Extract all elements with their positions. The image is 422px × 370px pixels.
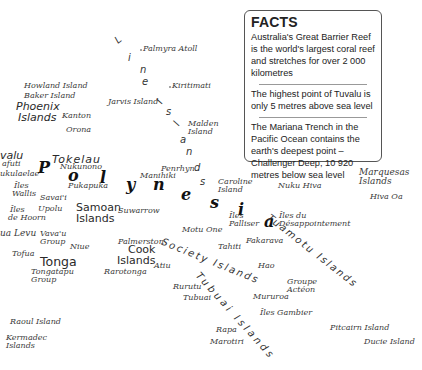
line-islands-letter: l [171,120,182,128]
place-pukapuka: Pukapuka [68,182,108,190]
island-dot [169,86,171,88]
place-savaii: Savai'i [40,194,67,202]
place-tubuai: Tubuai [183,294,211,302]
place-groupe-acteon: GroupeActéon [287,278,317,295]
place-kiritimati: Kiritimati [172,82,211,90]
line-islands-letter: s [200,176,205,187]
place-tongatapu: TongatapuGroup [31,268,74,285]
group-label-marquesas: MarquesasIslands [359,168,409,187]
place-pitcairn: Pitcairn Island [330,324,389,332]
place-rarotonga: Rarotonga [104,268,147,276]
region-label-letter: y [126,175,135,194]
line-islands-letter: a [180,134,186,145]
line-islands-letter: i [128,52,131,63]
place-funafuti-partial: afuti [2,160,21,168]
place-motu-one: Motu One [182,226,222,234]
polynesia-map: FACTS Australia's Great Barrier Reef is … [0,0,422,370]
place-vavau: Vava'uGroup [40,230,66,247]
line-islands-letter: s [166,106,171,117]
place-palmerston: Palmerston [118,238,164,246]
facts-box: FACTS Australia's Great Barrier Reef is … [244,10,382,162]
place-atiu: Atiu [154,262,171,270]
place-fakarava: Fakarava [246,237,283,245]
place-ducie: Ducie Island [364,338,415,346]
line-islands-letter: L [112,33,123,45]
fact-item: Australia's Great Barrier Reef is the wo… [251,32,375,80]
place-nukunono: Nukunono [60,163,102,171]
place-marotiri: Marotiri [210,338,244,346]
place-iles-gambier: Îles Gambier [260,309,312,317]
group-label-cook: CookIslands [117,244,155,266]
line-islands-letter: e [142,76,148,87]
island-dot [140,49,142,51]
place-iles-palliser: ÎlesPalliser [229,212,259,229]
place-palmyra: Palmyra Atoll [143,45,197,53]
facts-divider [259,117,367,118]
place-rurutu: Rurutu [173,283,202,291]
place-iles-wallis: ÎlesWallis [12,182,36,199]
place-rapa: Rapa [216,326,237,334]
place-penrhyn: Penrhyn [161,165,195,173]
facts-divider [259,84,367,85]
place-suwarrow: Suwarrow [118,207,160,215]
place-orona: Orona [66,126,91,134]
place-niue: Niue [70,243,89,251]
place-tahiti: Tahiti [218,243,241,251]
place-jarvis: Jarvis Island [108,98,158,106]
place-iles-de-hoorn: Îlesde Hoorn [8,206,46,223]
place-tofua: Tofua [12,250,34,258]
region-label-letter: s [210,193,219,212]
place-vanua-levu-partial: ua Levu [0,229,36,238]
place-iles-desappointement: Îles duDésappointement [279,212,350,229]
place-hiva-oa: Hiva Oa [370,193,403,201]
group-label-phoenix: PhoenixIslands [16,101,60,123]
region-label-letter: P [38,158,50,177]
line-islands-letter: n [186,146,192,157]
region-label-letter: e [181,185,191,204]
place-malden: MaldenIsland [188,120,219,137]
place-nuku-hiva: Nuku Hiva [278,182,322,190]
place-nukulaelae-partial: ukulaelae [0,170,39,178]
place-caroline: CarolineIsland [218,178,253,195]
place-baker: Baker Island [24,92,75,100]
fact-item: The Mariana Trench in the Pacific Ocean … [251,122,375,182]
place-hao: Hao [258,262,275,270]
group-label-samoan: SamoanIslands [76,202,121,224]
line-islands-letter: n [140,64,146,75]
place-mururoa: Mururoa [253,293,289,301]
place-kanton: Kanton [62,112,91,120]
fact-item: The highest point of Tuvalu is only 5 me… [251,89,375,113]
place-howland: Howland Island [24,82,88,90]
facts-title: FACTS [251,14,375,30]
place-raoul: Raoul Island [10,318,61,326]
place-kermadec: KermadecIslands [6,334,47,351]
